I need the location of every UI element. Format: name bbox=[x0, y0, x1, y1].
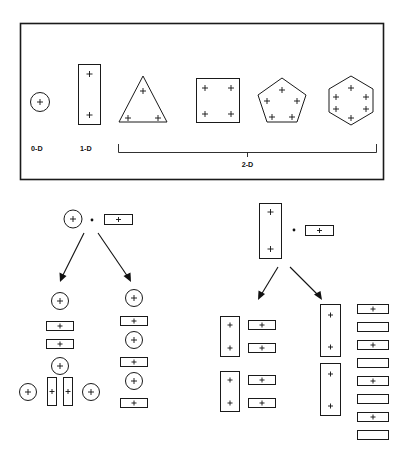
plus-mark bbox=[268, 209, 274, 215]
left-tree-right-branch-circle-3 bbox=[126, 373, 143, 390]
plus-mark bbox=[294, 98, 300, 104]
plus-mark bbox=[228, 85, 234, 91]
legend-shape-square bbox=[197, 79, 240, 123]
plus-mark bbox=[268, 246, 274, 252]
left-tree-arrow-left bbox=[60, 233, 85, 282]
plus-mark bbox=[57, 363, 63, 369]
plus-mark bbox=[363, 94, 369, 100]
plus-mark bbox=[333, 94, 339, 100]
plus-mark bbox=[116, 217, 121, 222]
plus-mark bbox=[132, 360, 137, 365]
plus-mark bbox=[131, 378, 137, 384]
right-right-branch-hrect-4 bbox=[358, 359, 389, 368]
left-branch-bottom-circle-1 bbox=[20, 384, 37, 401]
two-d-bracket bbox=[119, 144, 377, 157]
plus-mark bbox=[57, 298, 63, 304]
legend-shape-circle bbox=[31, 93, 50, 112]
legend-shape-pentagon bbox=[258, 78, 306, 122]
right-tree-root-rect bbox=[260, 204, 282, 259]
plus-mark bbox=[264, 98, 270, 104]
plus-mark bbox=[228, 346, 233, 351]
right-tree-root-hrect bbox=[306, 226, 334, 236]
plus-mark bbox=[363, 106, 369, 112]
right-left-branch-hrect-2 bbox=[249, 344, 276, 353]
label-two-d: 2-D bbox=[242, 160, 254, 169]
plus-mark bbox=[260, 323, 265, 328]
legend-shape-bar bbox=[79, 65, 101, 125]
plus-mark bbox=[328, 345, 333, 350]
legend-shape-hexagon bbox=[329, 76, 373, 125]
plus-mark bbox=[140, 88, 146, 94]
left-tree-right-branch-rect-3 bbox=[121, 399, 148, 408]
left-tree-operator-dot bbox=[91, 219, 94, 222]
right-right-branch-vrect-2 bbox=[321, 364, 341, 416]
plus-mark bbox=[333, 106, 339, 112]
right-left-branch-vrect-2 bbox=[221, 372, 240, 412]
plus-mark bbox=[131, 295, 137, 301]
plus-mark bbox=[228, 323, 233, 328]
right-left-branch-vrect-1 bbox=[221, 317, 240, 357]
plus-mark bbox=[260, 401, 265, 406]
left-tree-root-circle bbox=[64, 210, 82, 228]
plus-mark bbox=[202, 111, 208, 117]
plus-mark bbox=[317, 228, 322, 233]
left-tree-arrow-right bbox=[98, 233, 131, 282]
right-left-branch-hrect-4 bbox=[249, 399, 276, 408]
plus-mark bbox=[88, 389, 94, 395]
left-branch-bottom-bar-2 bbox=[64, 378, 73, 406]
left-branch-bottom-circle-2 bbox=[83, 384, 100, 401]
plus-mark bbox=[125, 115, 131, 121]
right-right-branch-hrect-5 bbox=[358, 377, 389, 386]
plus-mark bbox=[66, 389, 71, 394]
right-left-branch-hrect-1 bbox=[249, 321, 276, 330]
right-tree-arrow-right bbox=[290, 267, 322, 300]
right-left-branch-hrect-3 bbox=[249, 376, 276, 385]
plus-mark bbox=[58, 342, 63, 347]
plus-mark bbox=[289, 114, 295, 120]
right-right-branch-hrect-2 bbox=[358, 323, 389, 332]
plus-mark bbox=[328, 404, 333, 409]
plus-mark bbox=[279, 87, 285, 93]
plus-mark bbox=[25, 389, 31, 395]
plus-mark bbox=[371, 343, 376, 348]
plus-mark bbox=[228, 111, 234, 117]
right-right-branch-hrect-6 bbox=[358, 395, 389, 404]
plus-mark bbox=[228, 401, 233, 406]
left-tree-right-branch-rect-2 bbox=[121, 358, 148, 367]
plus-mark bbox=[328, 372, 333, 377]
plus-mark bbox=[348, 85, 354, 91]
right-right-branch-hrect-3 bbox=[358, 341, 389, 350]
legend-shape-triangle bbox=[119, 76, 167, 122]
right-right-branch-hrect-8 bbox=[358, 431, 389, 440]
left-tree-right-branch-circle-1 bbox=[126, 290, 143, 307]
plus-mark bbox=[37, 99, 43, 105]
plus-mark bbox=[371, 307, 376, 312]
plus-mark bbox=[50, 389, 55, 394]
plus-mark bbox=[260, 378, 265, 383]
left-branch-bottom-bar-1 bbox=[48, 378, 57, 406]
label-zero-d: 0-D bbox=[31, 144, 43, 153]
plus-mark bbox=[228, 378, 233, 383]
plus-mark bbox=[131, 337, 137, 343]
plus-mark bbox=[202, 85, 208, 91]
right-tree-arrow-left bbox=[258, 267, 278, 300]
plus-mark bbox=[371, 415, 376, 420]
right-right-branch-vrect-1 bbox=[321, 305, 341, 357]
plus-mark bbox=[328, 313, 333, 318]
left-branch-item-rect-2 bbox=[47, 340, 74, 349]
plus-mark bbox=[132, 319, 137, 324]
label-one-d: 1-D bbox=[80, 144, 92, 153]
plus-mark bbox=[132, 401, 137, 406]
right-tree-operator-dot bbox=[293, 229, 296, 232]
plus-mark bbox=[260, 346, 265, 351]
left-tree-right-branch-circle-2 bbox=[126, 332, 143, 349]
plus-mark bbox=[348, 115, 354, 121]
plus-mark bbox=[155, 115, 161, 121]
right-right-branch-hrect-1 bbox=[358, 305, 389, 314]
plus-mark bbox=[371, 379, 376, 384]
left-tree-root-rect bbox=[105, 215, 133, 225]
figure-canvas: 0-D 1-D 2-D bbox=[0, 0, 402, 456]
left-branch-item-circle-1 bbox=[52, 293, 69, 310]
right-right-branch-hrect-7 bbox=[358, 413, 389, 422]
left-tree-right-branch-rect-1 bbox=[121, 317, 148, 326]
